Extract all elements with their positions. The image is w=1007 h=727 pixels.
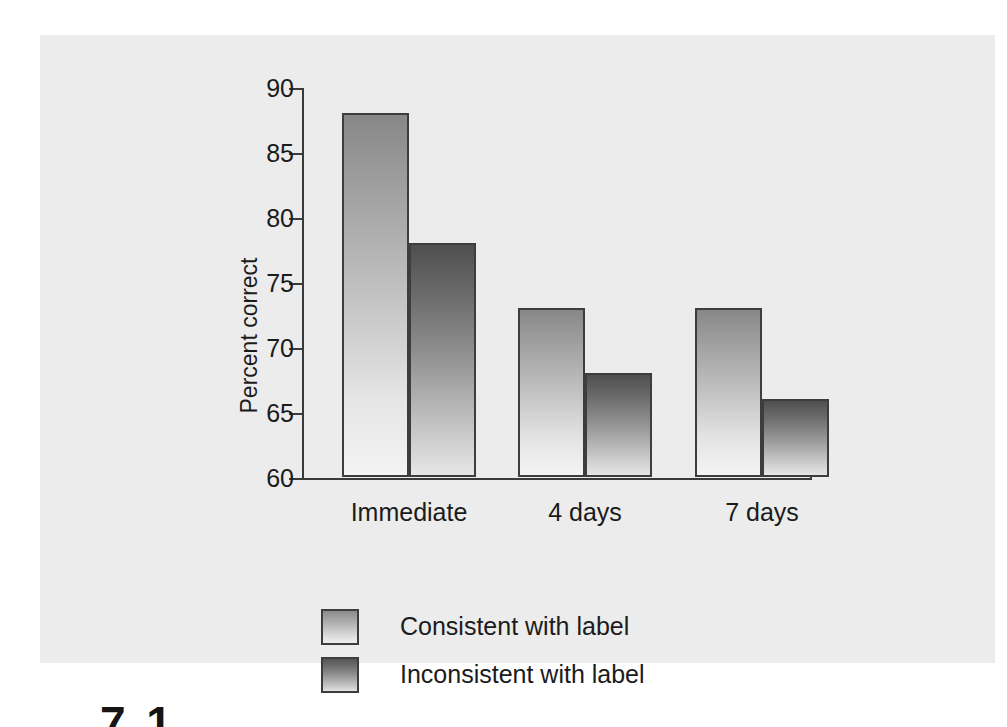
y-axis-tick-label: 85 (266, 140, 294, 166)
bar (585, 373, 652, 477)
x-axis-category-label: Immediate (342, 498, 476, 527)
y-axis-title: Percent correct (230, 205, 270, 465)
figure-caption-number: 7.1 (100, 700, 176, 727)
chart-legend: Consistent with labelInconsistent with l… (321, 605, 645, 701)
y-axis-title-text: Percent correct (237, 257, 264, 413)
legend-swatch (321, 657, 359, 693)
y-axis-tick-label: 70 (266, 335, 294, 361)
x-axis-category-label: 7 days (695, 498, 829, 527)
figure-panel: Percent correct 60657075808590 Immediate… (40, 35, 995, 663)
y-axis-line (302, 88, 304, 480)
legend-item: Consistent with label (321, 605, 645, 648)
legend-swatch (321, 609, 359, 645)
y-axis-tick-label: 90 (266, 75, 294, 101)
x-axis-line (302, 478, 812, 480)
legend-item: Inconsistent with label (321, 653, 645, 696)
bar (409, 243, 476, 477)
y-axis-tick-label: 60 (266, 465, 294, 491)
y-axis-tick-label: 65 (266, 400, 294, 426)
y-axis-tick-label: 75 (266, 270, 294, 296)
bar (342, 113, 409, 477)
bar (762, 399, 829, 477)
x-axis-category-label: 4 days (518, 498, 652, 527)
bar (518, 308, 585, 477)
plot-area: 60657075808590 Immediate4 days7 days (302, 88, 850, 479)
legend-label: Inconsistent with label (400, 660, 645, 689)
y-axis-tick-label: 80 (266, 205, 294, 231)
legend-label: Consistent with label (400, 612, 629, 641)
bar (695, 308, 762, 477)
